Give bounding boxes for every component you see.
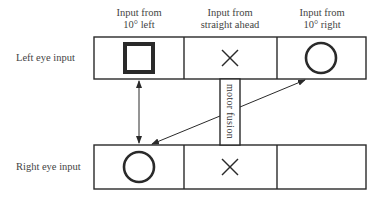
diagonal-arrow-segment: [240, 80, 305, 107]
circle-icon: [124, 152, 154, 182]
square-icon: [125, 44, 153, 72]
motor-fusion-label: motor fusion: [225, 84, 236, 139]
cross-icon: [222, 50, 238, 66]
diagonal-arrow-segment: [152, 116, 220, 144]
cross-icon: [222, 159, 238, 175]
circle-icon: [306, 43, 336, 73]
diagram-canvas: [0, 0, 377, 199]
